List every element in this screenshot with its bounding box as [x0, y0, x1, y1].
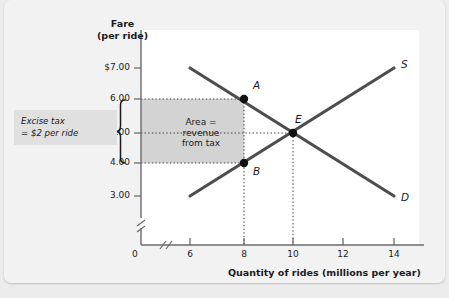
x-tick-label-14: 14 — [382, 249, 406, 259]
y-axis-title-line1: Fare — [97, 18, 148, 30]
origin-label: 0 — [132, 249, 138, 259]
y-axis-title-line2: (per ride) — [97, 30, 148, 42]
excise-tax-supply-demand-figure: Fare (per ride) Quantity of rides (milli… — [0, 0, 449, 298]
x-tick-label-10: 10 — [281, 249, 305, 259]
excise-tax-callout-line1: Excise tax — [21, 116, 112, 128]
point-B-label: B — [253, 165, 260, 177]
x-axis-title: Quantity of rides (millions per year) — [228, 267, 421, 279]
x-tick-label-12: 12 — [331, 249, 355, 259]
demand-curve-label: D — [401, 191, 409, 203]
excise-tax-callout: Excise tax = $2 per ride — [14, 110, 117, 145]
y-tick-label-4: 4.00 — [88, 157, 130, 167]
area-label-line3: from tax — [168, 138, 234, 149]
tax-revenue-area-label: Area = revenue from tax — [168, 117, 234, 149]
y-axis-break-mark-upper — [137, 220, 145, 226]
point-E-label: E — [295, 113, 302, 125]
y-axis-title: Fare (per ride) — [97, 18, 148, 41]
x-tick-label-8: 8 — [232, 249, 256, 259]
area-label-line2: revenue — [168, 128, 234, 139]
point-B-marker — [240, 159, 248, 167]
excise-tax-callout-line2: = $2 per ride — [21, 128, 112, 140]
point-A-label: A — [253, 79, 260, 91]
y-tick-label-3: 3.00 — [88, 190, 130, 200]
supply-curve-label: S — [401, 58, 408, 70]
point-A-marker — [240, 95, 248, 103]
y-tick-label-6: 6.00 — [88, 93, 130, 103]
area-label-line1: Area = — [168, 117, 234, 128]
y-tick-label-7: $7.00 — [88, 62, 130, 72]
x-tick-label-6: 6 — [178, 249, 202, 259]
point-E-marker — [289, 129, 297, 137]
